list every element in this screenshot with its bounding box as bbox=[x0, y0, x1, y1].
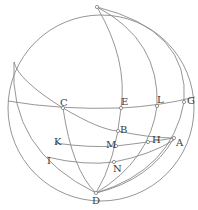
point-G bbox=[182, 100, 185, 103]
point-pole bbox=[95, 5, 98, 8]
meridian-through-C bbox=[63, 108, 96, 193]
circle-CELG bbox=[8, 97, 195, 108]
arc-left-to-D bbox=[14, 62, 96, 193]
label-K: K bbox=[54, 136, 62, 147]
label-D: D bbox=[92, 195, 100, 206]
label-L: L bbox=[157, 94, 164, 105]
point-H bbox=[146, 140, 149, 143]
sphere-diagram: C E L G B H A M K I N D bbox=[0, 0, 198, 210]
label-C: C bbox=[60, 97, 68, 108]
label-M: M bbox=[106, 139, 116, 150]
label-E: E bbox=[121, 96, 128, 107]
label-N: N bbox=[113, 163, 122, 174]
label-A: A bbox=[175, 137, 184, 148]
label-H: H bbox=[152, 134, 161, 145]
label-I: I bbox=[47, 155, 51, 166]
label-B: B bbox=[120, 124, 127, 135]
great-circle-CBA bbox=[14, 62, 174, 138]
label-G: G bbox=[187, 95, 195, 106]
